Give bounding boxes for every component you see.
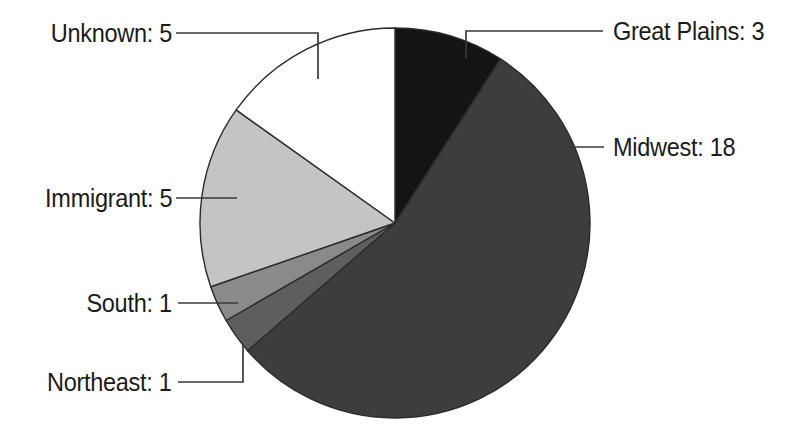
pie-label-midwest: Midwest: 18 xyxy=(613,135,735,160)
pie-label-immigrant: Immigrant: 5 xyxy=(45,186,172,211)
pie-label-great-plains: Great Plains: 3 xyxy=(613,19,764,44)
pie-label-northeast: Northeast: 1 xyxy=(47,370,172,395)
pie-label-south: South: 1 xyxy=(87,291,172,316)
pie-label-unknown: Unknown: 5 xyxy=(51,21,172,46)
pie-chart-figure: Unknown: 5 Immigrant: 5 South: 1 Northea… xyxy=(0,0,805,436)
pie-slices-group xyxy=(200,28,590,418)
leader-line-northeast xyxy=(178,344,243,382)
